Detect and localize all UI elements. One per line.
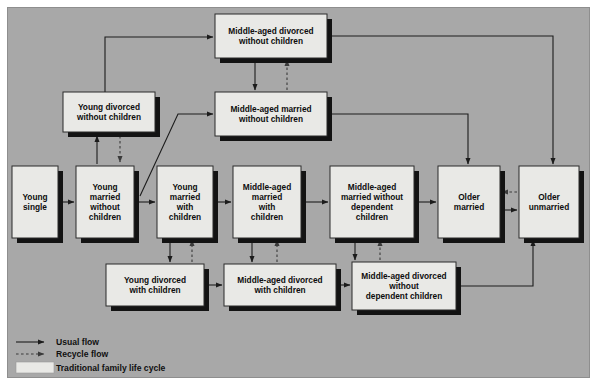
node-label-line: Young — [92, 182, 117, 192]
legend-label-usual: Usual flow — [56, 337, 99, 347]
node-label-line: dependent — [351, 202, 393, 212]
node-label-line: children — [356, 212, 388, 222]
node-label-line: Middle-aged married — [230, 104, 311, 114]
node-group: Middle-aged divorcedwithout childrenYoun… — [12, 14, 584, 315]
node-label-line: married — [454, 202, 484, 212]
node-label-line: married — [170, 192, 200, 202]
node-label-line: Middle-aged divorced — [228, 26, 313, 36]
node-label-line: Older — [538, 192, 560, 202]
node-older-married[interactable]: Oldermarried — [438, 166, 505, 243]
node-older-unmarried[interactable]: Olderunmarried — [519, 166, 584, 243]
node-label-line: with — [176, 202, 194, 212]
node-label-line: with children — [128, 285, 180, 295]
node-label-line: Middle-aged divorced — [237, 275, 322, 285]
node-label-line: single — [23, 202, 47, 212]
node-mam-w-children[interactable]: Middle-agedmarriedwithchildren — [233, 166, 306, 243]
node-label-line: children — [169, 212, 201, 222]
flow-connectors — [58, 36, 553, 286]
node-mam-wo-dep[interactable]: Middle-agedmarried withoutdependentchild… — [330, 166, 419, 243]
node-label-line: dependent children — [366, 291, 443, 301]
legend-swatch — [16, 362, 54, 373]
node-label-line: without children — [238, 114, 303, 124]
flow-madwodep-to-olderunmarried — [456, 240, 533, 286]
node-label-line: Older — [458, 192, 480, 202]
flow-mamwo-to-oldermarried — [327, 114, 468, 164]
node-label-line: Young divorced — [78, 102, 140, 112]
node-yd-wo-children[interactable]: Young divorcedwithout children — [63, 92, 160, 137]
node-label-line: unmarried — [529, 202, 570, 212]
node-yd-w-children[interactable]: Young divorcedwith children — [106, 264, 209, 311]
node-label-line: Middle-aged — [243, 182, 291, 192]
node-label-line: married without — [341, 192, 403, 202]
node-ym-wo-children[interactable]: Youngmarriedwithoutchildren — [76, 166, 139, 243]
node-label-line: without children — [238, 36, 303, 46]
legend-label-traditional: Traditional family life cycle — [56, 363, 166, 373]
node-mad-wo-children[interactable]: Middle-aged divorcedwithout children — [215, 14, 332, 63]
node-label-line: with children — [253, 285, 305, 295]
node-label-line: Young — [172, 182, 197, 192]
node-label-line: children — [89, 212, 121, 222]
node-ym-w-children[interactable]: Youngmarriedwithchildren — [157, 166, 218, 243]
family-life-cycle-diagram: Middle-aged divorcedwithout childrenYoun… — [0, 0, 597, 385]
flow-ydwo-to-madwo — [105, 37, 213, 92]
flow-madwo-to-olderunmarried — [327, 36, 553, 164]
node-label-line: children — [251, 212, 283, 222]
node-label-line: married — [90, 192, 120, 202]
node-mam-wo-children[interactable]: Middle-aged marriedwithout children — [215, 92, 332, 141]
legend: Usual flow Recycle flow Traditional fami… — [16, 337, 166, 373]
node-mad-w-children[interactable]: Middle-aged divorcedwith children — [224, 264, 341, 311]
node-young-single[interactable]: Youngsingle — [12, 166, 63, 243]
node-label-line: Young — [22, 192, 47, 202]
node-label-line: without children — [76, 112, 141, 122]
node-mad-wo-dep[interactable]: Middle-aged divorcedwithoutdependent chi… — [352, 262, 461, 315]
diagram-stage: Middle-aged divorcedwithout childrenYoun… — [0, 0, 597, 385]
legend-label-recycle: Recycle flow — [56, 349, 108, 359]
node-label-line: Middle-aged divorced — [361, 271, 446, 281]
node-label-line: Middle-aged — [348, 182, 396, 192]
node-label-line: without — [89, 202, 120, 212]
node-label-line: married — [252, 192, 282, 202]
node-label-line: with — [258, 202, 276, 212]
node-label-line: Young divorced — [124, 275, 186, 285]
node-label-line: without — [388, 281, 419, 291]
